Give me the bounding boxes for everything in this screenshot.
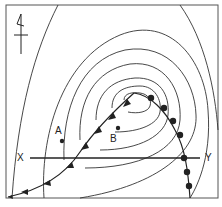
point-a-marker [60,139,64,143]
warm-front [134,93,192,198]
weather-map [0,0,222,207]
label-y: Y [205,153,212,163]
cold-front [8,93,134,199]
label-point-a: A [55,126,62,136]
label-point-b: B [110,134,117,144]
north-arrow-icon [14,14,28,54]
label-x: X [17,153,24,163]
point-b-marker [116,126,120,130]
